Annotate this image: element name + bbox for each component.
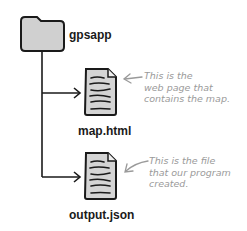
document-icon: [85, 153, 116, 199]
tree-diagram: [0, 0, 247, 231]
annotation-output-json: This is the file that our program create…: [149, 155, 231, 190]
file-label-map-html: map.html: [78, 124, 131, 138]
annotation-arrow-icon: [124, 74, 142, 83]
tree-connector-lines: [42, 51, 80, 182]
file-label-output-json: output.json: [69, 208, 134, 222]
document-icon: [85, 69, 116, 115]
annotation-arrow-icon: [125, 161, 148, 172]
annotation-map-html: This is the web page that contains the m…: [144, 70, 230, 105]
folder-label: gpsapp: [69, 28, 112, 42]
folder-icon: [21, 17, 64, 51]
